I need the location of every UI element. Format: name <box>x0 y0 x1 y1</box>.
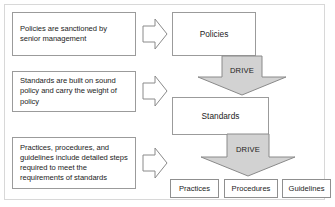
arrow-right-icon <box>141 17 169 51</box>
policies-description-box: Policies are sanctioned by senior manage… <box>12 12 136 56</box>
arrow-right-icon <box>141 146 169 180</box>
practices-box: Practices <box>170 179 219 198</box>
practices-description-text: Practices, procedures, and guidelines in… <box>20 143 128 184</box>
standards-box-label: Standards <box>173 111 268 121</box>
procedures-box-label: Procedures <box>225 184 277 193</box>
standards-box: Standards <box>172 97 269 135</box>
guidelines-box-label: Guidelines <box>283 184 330 193</box>
drive-arrow-policies-to-standards: DRIVE <box>196 55 288 97</box>
guidelines-box: Guidelines <box>282 179 331 198</box>
policies-box: Policies <box>172 12 256 56</box>
drive-label: DRIVE <box>199 145 297 154</box>
diagram-canvas: Policies are sanctioned by senior manage… <box>0 0 335 207</box>
policies-description-text: Policies are sanctioned by senior manage… <box>20 24 128 44</box>
arrow-right-icon <box>141 74 169 108</box>
procedures-box: Procedures <box>224 179 278 198</box>
policies-box-label: Policies <box>173 29 255 39</box>
standards-description-box: Standards are built on sound policy and … <box>12 71 136 112</box>
drive-arrow-standards-to-practices: DRIVE <box>199 133 297 178</box>
drive-label: DRIVE <box>196 66 288 75</box>
standards-description-text: Standards are built on sound policy and … <box>20 76 128 107</box>
practices-box-label: Practices <box>171 184 218 193</box>
practices-description-box: Practices, procedures, and guidelines in… <box>12 137 136 189</box>
